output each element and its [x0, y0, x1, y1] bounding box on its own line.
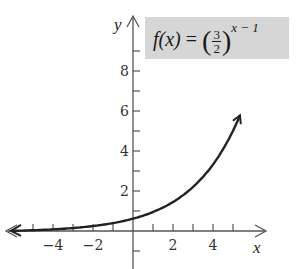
function-formula: f(x) = (32)x − 1	[153, 20, 259, 57]
fraction-numerator: 3	[212, 28, 221, 42]
y-tick-label: 2	[120, 183, 129, 199]
formula-exponent: x − 1	[231, 20, 259, 35]
x-tick-label: 4	[209, 237, 218, 253]
y-axis-label: y	[112, 15, 122, 34]
y-tick-label: 4	[120, 143, 129, 159]
x-tick-label: −2	[83, 237, 104, 253]
tick-labels: −4−2248642	[43, 63, 218, 253]
curve-arrow-heads	[11, 115, 241, 236]
left-paren: (	[202, 25, 211, 56]
x-axis-label: x	[252, 238, 261, 257]
y-tick-label: 6	[120, 103, 129, 119]
y-tick-label: 8	[120, 63, 129, 79]
x-tick-label: 2	[169, 237, 178, 253]
fraction: 32	[212, 28, 221, 55]
formula-equals: =	[186, 28, 197, 50]
fraction-denominator: 2	[212, 42, 221, 55]
graph-figure: −4−2248642 y x f(x) = (32)x − 1	[0, 0, 296, 269]
right-paren: )	[222, 25, 231, 56]
x-tick-label: −4	[43, 237, 64, 253]
formula-lhs: f(x)	[153, 28, 181, 50]
exponential-curve	[11, 115, 240, 231]
